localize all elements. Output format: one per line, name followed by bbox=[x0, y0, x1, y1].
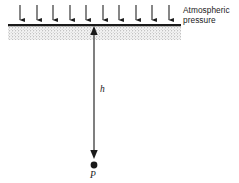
pressure-depth-diagram: Atmospheric pressure h P bbox=[0, 0, 239, 183]
depth-dimension-arrow bbox=[90, 26, 97, 159]
diagram-canvas bbox=[0, 0, 239, 183]
point-p-marker bbox=[91, 162, 98, 169]
atmospheric-pressure-arrows bbox=[20, 5, 169, 20]
